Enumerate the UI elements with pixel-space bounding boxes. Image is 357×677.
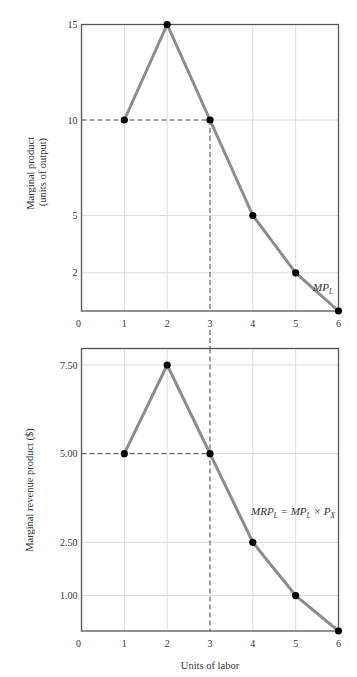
top-x-tick-labels: 0123456 <box>76 318 341 329</box>
data-point <box>164 361 171 368</box>
x-tick-label: 2 <box>165 318 170 329</box>
bottom-dashed-guides <box>82 349 211 632</box>
bottom-y-tick-labels: 1.002.505.007.50 <box>60 360 78 602</box>
y-tick-label: 15 <box>68 19 78 30</box>
data-point <box>335 307 342 314</box>
x-tick-label: 0 <box>76 318 81 329</box>
x-tick-label: 0 <box>76 638 81 649</box>
x-tick-label: 1 <box>122 638 127 649</box>
data-point <box>121 116 128 123</box>
mrp-curve <box>124 365 338 631</box>
x-tick-label: 2 <box>165 638 170 649</box>
y-tick-label: 10 <box>68 115 78 126</box>
top-y-axis-label: Marginal product (units of output) <box>25 134 49 210</box>
data-point <box>206 116 213 123</box>
data-point <box>292 592 299 599</box>
x-axis-label: Units of labor <box>181 660 240 671</box>
data-point <box>164 21 171 28</box>
data-point <box>249 539 256 546</box>
figure: 251015 0123456 Marginal product (units o… <box>0 0 357 677</box>
data-point <box>121 450 128 457</box>
top-y-label-line-1: Marginal product <box>25 137 36 210</box>
x-tick-label: 4 <box>250 638 255 649</box>
mp-curve <box>124 25 338 312</box>
y-tick-label: 7.50 <box>60 360 78 371</box>
mp-curve-label: MPL <box>312 281 333 296</box>
y-tick-label: 5 <box>73 210 78 221</box>
y-tick-label: 1.00 <box>60 590 78 601</box>
data-point <box>292 269 299 276</box>
data-point <box>249 212 256 219</box>
bottom-y-axis-label: Marginal revenue product ($) <box>24 428 36 552</box>
mrp-curve-label: MRPL = MPL × PX <box>250 505 335 520</box>
y-tick-label: 5.00 <box>60 448 78 459</box>
marginal-product-chart: 251015 0123456 Marginal product (units o… <box>25 19 342 329</box>
top-y-tick-labels: 251015 <box>68 19 78 278</box>
x-tick-label: 4 <box>250 318 255 329</box>
y-tick-label: 2.50 <box>60 537 78 548</box>
marginal-revenue-product-chart: 1.002.505.007.50 0123456 Marginal revenu… <box>24 349 342 672</box>
x-tick-label: 3 <box>208 318 213 329</box>
bottom-x-tick-labels: 0123456 <box>76 638 341 649</box>
data-point <box>335 627 342 634</box>
x-tick-label: 5 <box>293 318 298 329</box>
x-tick-label: 3 <box>208 638 213 649</box>
top-y-label-line-2: (units of output) <box>37 137 49 206</box>
x-tick-label: 5 <box>293 638 298 649</box>
x-tick-label: 6 <box>336 318 341 329</box>
x-tick-label: 1 <box>122 318 127 329</box>
data-point <box>206 450 213 457</box>
x-tick-label: 6 <box>336 638 341 649</box>
y-tick-label: 2 <box>73 267 78 278</box>
